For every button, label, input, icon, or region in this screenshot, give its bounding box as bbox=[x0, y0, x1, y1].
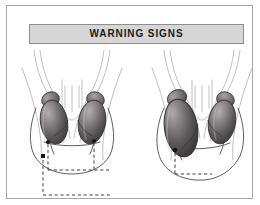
swollen-panel bbox=[152, 50, 252, 180]
banner-title: WARNING SIGNS bbox=[90, 29, 184, 39]
body-outline-normal bbox=[22, 50, 122, 160]
marker-dot-normal-left bbox=[46, 140, 50, 144]
body-outline-swollen bbox=[152, 50, 252, 160]
normal-panel bbox=[22, 50, 122, 195]
marker-dot-normal-right bbox=[92, 139, 96, 143]
warning-signs-banner: WARNING SIGNS bbox=[29, 24, 244, 44]
label-normal-testicles: NORMAL TESTICLES bbox=[118, 204, 165, 205]
marker-dot-swollen bbox=[173, 148, 178, 153]
anatomy-illustration bbox=[14, 50, 259, 205]
page-frame: WARNING SIGNS bbox=[6, 5, 253, 199]
illustration-page: WARNING SIGNS bbox=[0, 0, 260, 205]
leader-normal-testicles bbox=[48, 143, 111, 170]
marker-dot-scrotum bbox=[41, 154, 45, 158]
testicle-left-normal bbox=[37, 89, 71, 146]
testicle-swollen bbox=[160, 86, 202, 159]
figure-stage: NORMAL TESTICLES SCROTUM SWOLLEN TESTICL… bbox=[14, 50, 259, 205]
